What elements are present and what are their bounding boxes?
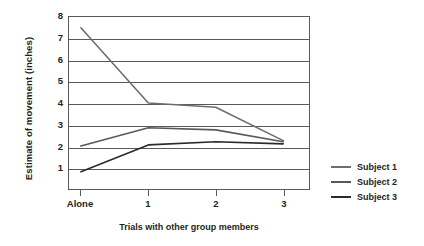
y-axis-tick-label: 8	[58, 11, 63, 21]
x-axis-tick-labels: Alone123	[0, 198, 380, 212]
legend-line-icon	[331, 166, 351, 168]
legend-label: Subject 1	[357, 162, 397, 172]
y-axis-title: Estimate of movement (inches)	[23, 19, 34, 199]
x-axis-tick-label: Alone	[67, 198, 93, 209]
x-axis-tick	[80, 190, 81, 196]
y-axis-tick-label: 5	[58, 76, 63, 86]
plot-area	[68, 16, 310, 190]
chart-figure: Estimate of movement (inches) 12345678 A…	[0, 0, 424, 246]
x-axis-tick-label: 2	[213, 198, 218, 209]
y-axis-tick-label: 7	[58, 33, 63, 43]
legend-item[interactable]: Subject 3	[331, 189, 423, 204]
x-axis-tick-label: 1	[145, 198, 150, 209]
x-axis-tick-label: 3	[281, 198, 286, 209]
legend-label: Subject 2	[357, 177, 397, 187]
y-axis-tick-label: 1	[58, 163, 63, 173]
x-axis-ticks	[68, 190, 310, 197]
x-axis-tick	[284, 190, 285, 196]
x-axis-tick	[216, 190, 217, 196]
series-line	[81, 142, 283, 172]
legend-item[interactable]: Subject 1	[331, 159, 423, 174]
legend-label: Subject 3	[357, 192, 397, 202]
y-axis-tick-label: 6	[58, 55, 63, 65]
series-line	[81, 28, 283, 141]
y-axis-tick-label: 3	[58, 120, 63, 130]
y-axis-tick-label: 4	[58, 98, 63, 108]
data-lines	[69, 17, 309, 189]
y-axis-tick-label: 2	[58, 142, 63, 152]
x-axis-tick	[148, 190, 149, 196]
legend-item[interactable]: Subject 2	[331, 174, 423, 189]
chart-legend: Subject 1Subject 2Subject 3	[331, 159, 423, 204]
x-axis-title: Trials with other group members	[68, 222, 310, 232]
legend-line-icon	[331, 181, 351, 183]
legend-line-icon	[331, 196, 351, 198]
